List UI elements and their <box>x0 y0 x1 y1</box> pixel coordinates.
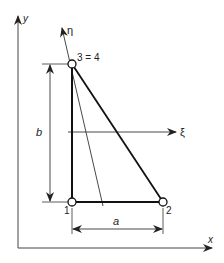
element-diagram: y x η ξ 3 = 4 1 2 b a <box>0 0 224 263</box>
dimension-b <box>42 64 68 202</box>
xi-axis-label: ξ <box>180 126 185 138</box>
eta-axis-label: η <box>67 24 73 36</box>
node-3-label: 3 = 4 <box>77 52 100 63</box>
dimension-a-label: a <box>113 215 119 227</box>
node-2-label: 2 <box>166 205 172 216</box>
node-3 <box>68 60 76 68</box>
y-axis-label: y <box>22 13 29 24</box>
node-1-label: 1 <box>64 205 70 216</box>
x-axis-label: x <box>207 234 214 245</box>
triangle-element <box>72 64 163 202</box>
dimension-b-label: b <box>36 126 42 138</box>
